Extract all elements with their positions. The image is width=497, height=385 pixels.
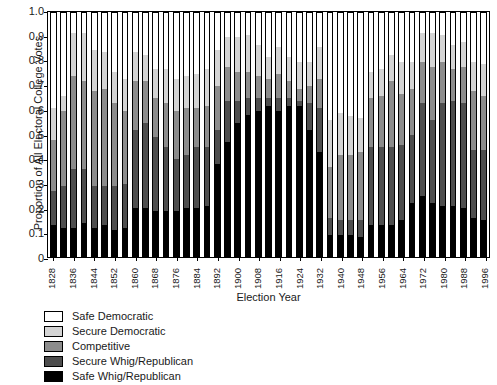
- bar-slot[interactable]: [417, 12, 427, 257]
- bar-slot[interactable]: [161, 12, 171, 257]
- stacked-bar[interactable]: [183, 12, 190, 257]
- stacked-bar[interactable]: [316, 12, 323, 257]
- bar-slot[interactable]: [376, 12, 386, 257]
- stacked-bar[interactable]: [357, 12, 364, 257]
- stacked-bar[interactable]: [173, 12, 180, 257]
- stacked-bar[interactable]: [480, 12, 487, 257]
- bar-slot[interactable]: [151, 12, 161, 257]
- legend-item[interactable]: Safe Democratic: [44, 309, 344, 324]
- bar-slot[interactable]: [325, 12, 335, 257]
- stacked-bar[interactable]: [142, 12, 149, 257]
- stacked-bar[interactable]: [419, 12, 426, 257]
- bar-slot[interactable]: [315, 12, 325, 257]
- bar-slot[interactable]: [79, 12, 89, 257]
- stacked-bar[interactable]: [111, 12, 118, 257]
- stacked-bar[interactable]: [398, 12, 405, 257]
- legend-item[interactable]: Competitive: [44, 339, 344, 354]
- bar-slot[interactable]: [438, 12, 448, 257]
- stacked-bar[interactable]: [337, 12, 344, 257]
- bar-slot[interactable]: [263, 12, 273, 257]
- bar-slot[interactable]: [335, 12, 345, 257]
- bar-slot[interactable]: [140, 12, 150, 257]
- stacked-bar[interactable]: [265, 12, 272, 257]
- bar-slot[interactable]: [284, 12, 294, 257]
- stacked-bar[interactable]: [378, 12, 385, 257]
- stacked-bar[interactable]: [152, 12, 159, 257]
- bar-slot[interactable]: [212, 12, 222, 257]
- bar-slot[interactable]: [304, 12, 314, 257]
- stacked-bar[interactable]: [81, 12, 88, 257]
- bar-slot[interactable]: [48, 12, 58, 257]
- bar-segment: [276, 74, 281, 98]
- bar-slot[interactable]: [407, 12, 417, 257]
- stacked-bar[interactable]: [234, 12, 241, 257]
- stacked-bar[interactable]: [60, 12, 67, 257]
- bar-slot[interactable]: [243, 12, 253, 257]
- bar-slot[interactable]: [192, 12, 202, 257]
- bar-slot[interactable]: [171, 12, 181, 257]
- stacked-bar[interactable]: [306, 12, 313, 257]
- legend-item[interactable]: Safe Whig/Republican: [44, 369, 344, 384]
- bar-slot[interactable]: [427, 12, 437, 257]
- x-tick-label: 1836: [68, 259, 78, 289]
- bar-slot[interactable]: [89, 12, 99, 257]
- x-tick-label: 1924: [295, 259, 305, 289]
- bar-slot[interactable]: [274, 12, 284, 257]
- stacked-bar[interactable]: [327, 12, 334, 257]
- stacked-bar[interactable]: [286, 12, 293, 257]
- stacked-bar[interactable]: [245, 12, 252, 257]
- bar-slot[interactable]: [99, 12, 109, 257]
- bar-segment: [348, 116, 353, 155]
- bar-slot[interactable]: [448, 12, 458, 257]
- legend-item[interactable]: Secure Whig/Republican: [44, 354, 344, 369]
- bar-slot[interactable]: [294, 12, 304, 257]
- legend-item[interactable]: Secure Democratic: [44, 324, 344, 339]
- bar-slot[interactable]: [202, 12, 212, 257]
- bar-slot[interactable]: [253, 12, 263, 257]
- stacked-bar[interactable]: [122, 12, 129, 257]
- stacked-bar[interactable]: [368, 12, 375, 257]
- bar-slot[interactable]: [356, 12, 366, 257]
- stacked-bar[interactable]: [470, 12, 477, 257]
- stacked-bar[interactable]: [450, 12, 457, 257]
- stacked-bar[interactable]: [460, 12, 467, 257]
- stacked-bar[interactable]: [275, 12, 282, 257]
- bar-slot[interactable]: [181, 12, 191, 257]
- bar-slot[interactable]: [120, 12, 130, 257]
- stacked-bar[interactable]: [101, 12, 108, 257]
- stacked-bar[interactable]: [132, 12, 139, 257]
- bar-slot[interactable]: [468, 12, 478, 257]
- bar-slot[interactable]: [69, 12, 79, 257]
- stacked-bar[interactable]: [193, 12, 200, 257]
- bar-slot[interactable]: [479, 12, 489, 257]
- bar-slot[interactable]: [345, 12, 355, 257]
- bar-slot[interactable]: [222, 12, 232, 257]
- bar-slot[interactable]: [458, 12, 468, 257]
- stacked-bar[interactable]: [163, 12, 170, 257]
- bar-slot[interactable]: [130, 12, 140, 257]
- bar-slot[interactable]: [58, 12, 68, 257]
- bar-segment: [451, 13, 456, 45]
- bar-slot[interactable]: [233, 12, 243, 257]
- bar-slot[interactable]: [110, 12, 120, 257]
- stacked-bar[interactable]: [70, 12, 77, 257]
- stacked-bar[interactable]: [204, 12, 211, 257]
- bar-segment: [194, 13, 199, 74]
- stacked-bar[interactable]: [224, 12, 231, 257]
- bar-slot[interactable]: [386, 12, 396, 257]
- stacked-bar[interactable]: [91, 12, 98, 257]
- bar-segment: [61, 13, 66, 96]
- stacked-bar[interactable]: [439, 12, 446, 257]
- stacked-bar[interactable]: [388, 12, 395, 257]
- bar-slot[interactable]: [366, 12, 376, 257]
- stacked-bar[interactable]: [255, 12, 262, 257]
- bar-segment: [430, 203, 435, 257]
- stacked-bar[interactable]: [214, 12, 221, 257]
- stacked-bar[interactable]: [50, 12, 57, 257]
- bar-slot[interactable]: [397, 12, 407, 257]
- stacked-bar[interactable]: [347, 12, 354, 257]
- stacked-bar[interactable]: [409, 12, 416, 257]
- stacked-bar[interactable]: [296, 12, 303, 257]
- bar-segment: [143, 123, 148, 208]
- stacked-bar[interactable]: [429, 12, 436, 257]
